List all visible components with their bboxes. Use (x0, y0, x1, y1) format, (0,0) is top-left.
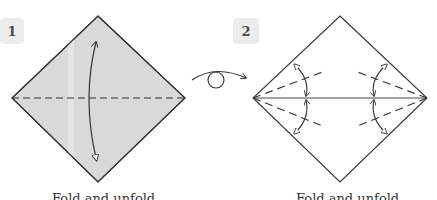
origami-diagram (0, 0, 437, 200)
step-2-diagram (253, 16, 427, 182)
turn-over-arrow-icon (192, 71, 246, 88)
step-1-diagram (12, 16, 185, 182)
step-2-caption: Fold and unfold (296, 191, 399, 200)
step-1-caption: Fold and unfold (52, 191, 155, 200)
paper-diamond-white (253, 16, 427, 182)
paper-diamond-colored (12, 16, 185, 182)
